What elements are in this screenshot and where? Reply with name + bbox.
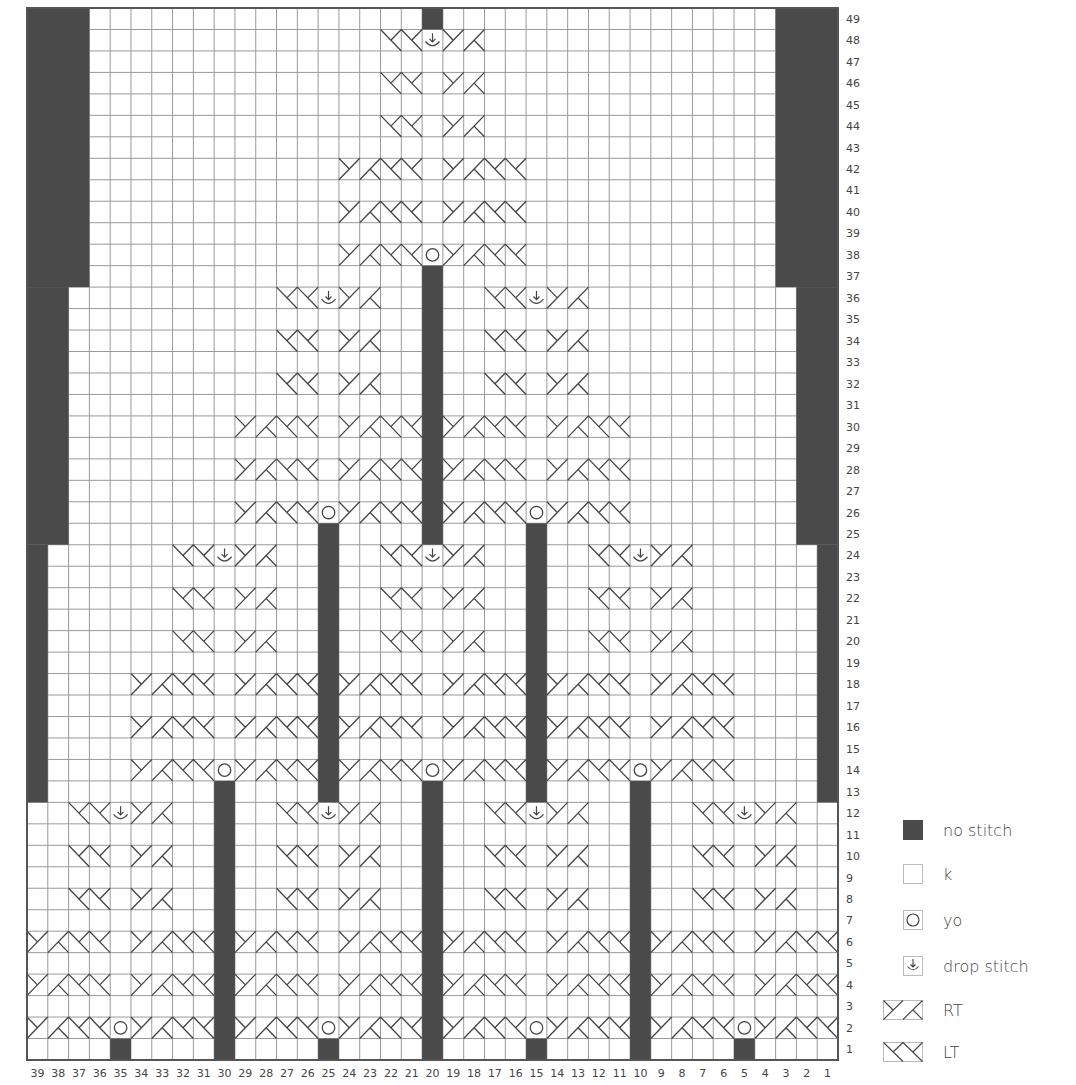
- row-number: 5: [846, 957, 853, 970]
- column-number: 28: [259, 1067, 273, 1080]
- row-number: 46: [846, 77, 860, 90]
- row-number: 23: [846, 571, 860, 584]
- yarn-over-icon: [426, 249, 438, 261]
- column-number: 14: [550, 1067, 564, 1080]
- column-number: 32: [176, 1067, 190, 1080]
- legend-item-yo: yo: [878, 905, 938, 935]
- no-stitch-cell: [27, 545, 48, 803]
- column-number: 36: [93, 1067, 107, 1080]
- legend-item-drop-stitch: drop stitch: [878, 951, 938, 981]
- column-number: 31: [197, 1067, 211, 1080]
- column-number: 25: [322, 1067, 336, 1080]
- row-number: 44: [846, 120, 860, 133]
- column-number: 6: [720, 1067, 727, 1080]
- legend-label: RT: [943, 1001, 963, 1020]
- no-stitch-cell: [817, 545, 838, 803]
- row-number: 11: [846, 829, 860, 842]
- column-number: 21: [405, 1067, 419, 1080]
- row-number: 47: [846, 56, 860, 69]
- knit-icon: [878, 859, 938, 889]
- column-number: 30: [218, 1067, 232, 1080]
- row-number: 42: [846, 163, 860, 176]
- column-number: 33: [155, 1067, 169, 1080]
- column-number: 23: [363, 1067, 377, 1080]
- row-number: 22: [846, 592, 860, 605]
- row-number: 37: [846, 270, 860, 283]
- row-number: 32: [846, 378, 860, 391]
- no-stitch-icon: [878, 815, 938, 845]
- row-number: 13: [846, 786, 860, 799]
- row-number: 15: [846, 743, 860, 756]
- no-stitch-cell: [526, 1039, 547, 1060]
- row-number: 43: [846, 142, 860, 155]
- yarn-over-icon: [634, 764, 646, 776]
- yarn-over-icon: [426, 764, 438, 776]
- drop-stitch-icon: [878, 951, 938, 981]
- no-stitch-cell: [776, 8, 838, 287]
- column-number: 35: [114, 1067, 128, 1080]
- row-number: 8: [846, 893, 853, 906]
- column-number: 4: [762, 1067, 769, 1080]
- row-number: 16: [846, 721, 860, 734]
- row-number: 1: [846, 1043, 853, 1056]
- row-number: 45: [846, 99, 860, 112]
- column-number: 17: [488, 1067, 502, 1080]
- column-number: 3: [783, 1067, 790, 1080]
- legend-label: k: [943, 865, 952, 884]
- yarn-over-icon: [114, 1022, 126, 1034]
- row-number: 6: [846, 936, 853, 949]
- row-number: 20: [846, 635, 860, 648]
- row-number: 26: [846, 507, 860, 520]
- legend-label: yo: [943, 911, 962, 930]
- row-number: 34: [846, 335, 860, 348]
- row-number: 40: [846, 206, 860, 219]
- column-number: 13: [571, 1067, 585, 1080]
- legend-label: no stitch: [943, 821, 1012, 840]
- row-number: 21: [846, 614, 860, 627]
- row-numbers: 1234567891011121314151617181920212223242…: [846, 13, 860, 1057]
- legend-item-lt: LT: [878, 1037, 938, 1067]
- column-number: 34: [134, 1067, 148, 1080]
- row-number: 17: [846, 700, 860, 713]
- no-stitch-cell: [796, 287, 838, 545]
- no-stitch-cell: [27, 287, 69, 545]
- no-stitch-cell: [110, 1039, 131, 1060]
- row-number: 31: [846, 399, 860, 412]
- column-number: 11: [613, 1067, 627, 1080]
- no-stitch-cell: [526, 523, 547, 802]
- row-number: 9: [846, 872, 853, 885]
- row-number: 27: [846, 485, 860, 498]
- column-number: 29: [238, 1067, 252, 1080]
- yarn-over-icon: [738, 1022, 750, 1034]
- column-number: 15: [529, 1067, 543, 1080]
- legend-item-no-stitch: no stitch: [878, 815, 938, 845]
- column-number: 38: [51, 1067, 65, 1080]
- row-number: 24: [846, 549, 860, 562]
- column-number: 2: [803, 1067, 810, 1080]
- row-number: 49: [846, 13, 860, 26]
- no-stitch-cell: [27, 8, 89, 287]
- row-number: 3: [846, 1000, 853, 1013]
- no-stitch-cell: [734, 1039, 755, 1060]
- yarn-over-icon: [530, 1022, 542, 1034]
- column-number: 8: [679, 1067, 686, 1080]
- row-number: 35: [846, 313, 860, 326]
- column-number: 16: [509, 1067, 523, 1080]
- row-number: 12: [846, 807, 860, 820]
- column-number: 19: [446, 1067, 460, 1080]
- row-number: 38: [846, 249, 860, 262]
- row-number: 39: [846, 227, 860, 240]
- row-number: 29: [846, 442, 860, 455]
- no-stitch-cell: [422, 8, 443, 29]
- column-number: 27: [280, 1067, 294, 1080]
- row-number: 10: [846, 850, 860, 863]
- no-stitch-cell: [214, 781, 235, 1060]
- column-number: 24: [342, 1067, 356, 1080]
- column-number: 39: [30, 1067, 44, 1080]
- row-number: 48: [846, 34, 860, 47]
- column-number: 18: [467, 1067, 481, 1080]
- column-number: 12: [592, 1067, 606, 1080]
- no-stitch-cell: [318, 1039, 339, 1060]
- no-stitch-cell: [630, 781, 651, 1060]
- no-stitch-cell: [318, 523, 339, 802]
